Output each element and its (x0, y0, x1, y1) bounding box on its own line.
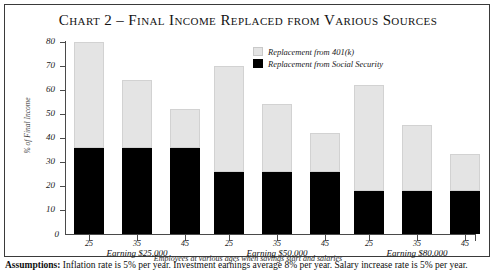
bar-segment-401k (214, 66, 244, 172)
x-axis-line (65, 234, 476, 235)
x-tick-label-2-35: 35 (262, 239, 292, 248)
y-tick-label-70: 70 (21, 60, 55, 70)
bar-segment-social-security (402, 191, 432, 234)
y-tick-label-50: 50 (21, 108, 55, 118)
bar-segment-social-security (262, 172, 292, 234)
bar-1-age-35 (122, 80, 152, 234)
y-tick-label-0: 0 (45, 229, 59, 239)
bar-3-age-35 (402, 125, 432, 234)
bar-segment-401k (450, 154, 480, 191)
bar-2-age-35 (262, 104, 292, 234)
bar-1-age-25 (74, 42, 104, 234)
assumptions-text: Inflation rate is 5% per year. Investmen… (60, 260, 467, 270)
bar-segment-401k (122, 80, 152, 147)
x-tick-label-1-45: 45 (170, 239, 200, 248)
bar-3-age-45 (450, 154, 480, 234)
bar-segment-401k (310, 133, 340, 171)
y-tick-label-30: 30 (21, 156, 55, 166)
y-tick-label-80: 80 (21, 36, 55, 46)
bar-segment-social-security (122, 148, 152, 234)
y-tick-label-60: 60 (21, 84, 55, 94)
x-tick-label-3-35: 35 (402, 239, 432, 248)
bar-segment-social-security (310, 172, 340, 234)
y-tick-label-20: 20 (21, 180, 55, 190)
x-tick-label-1-25: 25 (74, 239, 104, 248)
bar-segment-401k (262, 104, 292, 171)
bar-segment-social-security (170, 148, 200, 234)
x-tick-label-2-25: 25 (214, 239, 244, 248)
x-tick-label-1-35: 35 (122, 239, 152, 248)
bar-segment-social-security (214, 172, 244, 234)
y-tick-label-10: 10 (21, 204, 55, 214)
bar-segment-401k (354, 85, 384, 191)
chart-border-box: Chart 2 – Final Income Replaced from Var… (4, 4, 490, 257)
bar-segment-social-security (450, 191, 480, 234)
bar-segment-401k (402, 125, 432, 191)
x-tick-label-2-45: 45 (310, 239, 340, 248)
bar-2-age-45 (310, 133, 340, 234)
bar-1-age-45 (170, 109, 200, 234)
page-title: Chart 2 – Final Income Replaced from Var… (5, 12, 491, 29)
bar-3-age-25 (354, 85, 384, 234)
assumptions-label: Assumptions: (5, 260, 60, 270)
plot-area (66, 42, 475, 234)
bar-segment-401k (74, 42, 104, 148)
bar-segment-social-security (74, 148, 104, 234)
bar-segment-401k (170, 109, 200, 147)
chart-figure: Chart 2 – Final Income Replaced from Var… (0, 0, 494, 275)
y-tick-label-40: 40 (21, 132, 55, 142)
assumptions-footnote: Assumptions: Inflation rate is 5% per ye… (5, 260, 489, 270)
bar-segment-social-security (354, 191, 384, 234)
x-tick-end (475, 235, 476, 241)
x-tick-label-3-25: 25 (354, 239, 384, 248)
bar-2-age-25 (214, 66, 244, 234)
